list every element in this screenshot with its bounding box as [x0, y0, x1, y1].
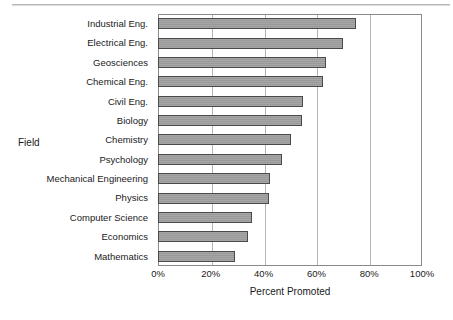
bar[interactable]	[158, 173, 270, 184]
bar-row	[158, 227, 422, 246]
bar[interactable]	[158, 76, 323, 87]
x-tick-label: 60%	[307, 268, 326, 279]
category-label: Computer Science	[70, 208, 148, 227]
bar-chart: Industrial Eng.Electrical Eng.Geoscience…	[0, 0, 453, 320]
x-tick-label: 20%	[201, 268, 220, 279]
category-label: Mechanical Engineering	[47, 169, 148, 188]
bars-layer	[158, 14, 422, 266]
bar-row	[158, 111, 422, 130]
category-label: Psychology	[99, 150, 148, 169]
bar[interactable]	[158, 193, 269, 204]
bar[interactable]	[158, 251, 235, 262]
bar-row	[158, 208, 422, 227]
x-tick-label: 80%	[360, 268, 379, 279]
category-label: Chemical Eng.	[86, 72, 148, 91]
category-label: Mathematics	[94, 247, 148, 266]
bar[interactable]	[158, 57, 326, 68]
bar-row	[158, 169, 422, 188]
category-label: Civil Eng.	[108, 92, 148, 111]
bar-row	[158, 72, 422, 91]
bar-row	[158, 14, 422, 33]
bar-row	[158, 150, 422, 169]
category-label: Biology	[117, 111, 148, 130]
bar[interactable]	[158, 134, 291, 145]
y-axis-title: Field	[18, 137, 40, 148]
category-label: Physics	[115, 188, 148, 207]
x-tick-label: 100%	[410, 268, 434, 279]
bar[interactable]	[158, 38, 343, 49]
category-label: Geosciences	[93, 53, 148, 72]
bar-row	[158, 33, 422, 52]
bar[interactable]	[158, 96, 303, 107]
bar[interactable]	[158, 18, 356, 29]
bar[interactable]	[158, 231, 248, 242]
x-tick-label: 0%	[151, 268, 165, 279]
bar-row	[158, 53, 422, 72]
category-label: Industrial Eng.	[87, 14, 148, 33]
bar-row	[158, 247, 422, 266]
bar[interactable]	[158, 154, 282, 165]
bar[interactable]	[158, 115, 302, 126]
bar[interactable]	[158, 212, 252, 223]
x-tick-label: 40%	[254, 268, 273, 279]
value-axis-tick-labels: 0%20%40%60%80%100%	[0, 268, 453, 284]
category-label: Chemistry	[105, 130, 148, 149]
x-axis-title: Percent Promoted	[158, 286, 422, 297]
category-label: Economics	[102, 227, 148, 246]
bar-row	[158, 188, 422, 207]
bar-row	[158, 130, 422, 149]
category-label: Electrical Eng.	[87, 33, 148, 52]
bar-row	[158, 92, 422, 111]
